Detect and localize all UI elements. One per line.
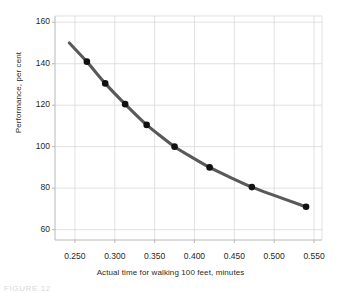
figure-caption: FIGURE 12 bbox=[4, 284, 51, 293]
x-axis-tick-label: 0.550 bbox=[294, 251, 334, 261]
chart-plot-area bbox=[0, 0, 341, 293]
data-point-marker bbox=[102, 80, 109, 87]
y-axis-tick-label: 80 bbox=[20, 182, 50, 192]
x-axis-tick-label: 0.250 bbox=[55, 251, 95, 261]
x-axis-tick-label: 0.300 bbox=[95, 251, 135, 261]
x-axis-tick-label: 0.350 bbox=[135, 251, 175, 261]
data-point-marker bbox=[206, 164, 213, 171]
y-axis-tick-labels: 1601401201008060 bbox=[18, 0, 50, 293]
data-point-marker bbox=[303, 204, 310, 211]
data-point-marker bbox=[171, 143, 178, 150]
y-axis-tick-label: 160 bbox=[20, 16, 50, 26]
x-axis-tick-label: 0.450 bbox=[214, 251, 254, 261]
data-point-marker bbox=[249, 184, 256, 191]
y-axis-title: Performance, per cent bbox=[14, 23, 23, 163]
y-axis-tick-label: 140 bbox=[20, 58, 50, 68]
data-point-marker bbox=[84, 58, 91, 65]
data-point-marker bbox=[143, 122, 150, 129]
x-axis-tick-label: 0.400 bbox=[174, 251, 214, 261]
y-axis-tick-label: 120 bbox=[20, 99, 50, 109]
y-axis-tick-label: 60 bbox=[20, 224, 50, 234]
x-axis-tick-label: 0.500 bbox=[254, 251, 294, 261]
x-axis-title: Actual time for walking 100 feet, minute… bbox=[0, 268, 341, 277]
chart-figure: 1601401201008060 0.2500.3000.3500.4000.4… bbox=[0, 0, 341, 293]
y-axis-tick-label: 100 bbox=[20, 141, 50, 151]
data-point-marker bbox=[122, 101, 129, 108]
plot-background bbox=[55, 16, 322, 240]
